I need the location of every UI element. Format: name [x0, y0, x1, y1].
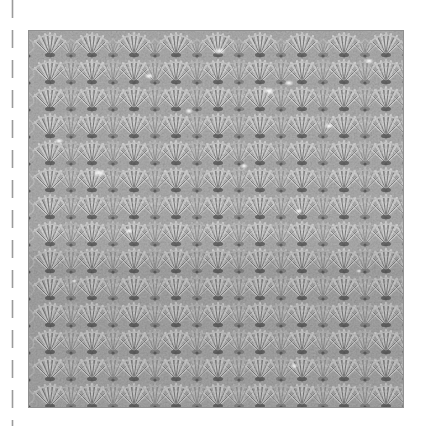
shell-stitch-texture: [29, 31, 404, 408]
dashed-cut-line: [11, 0, 14, 426]
crochet-swatch-photo: [28, 30, 404, 408]
